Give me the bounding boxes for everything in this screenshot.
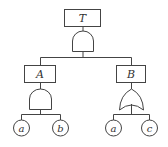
- svg-text:c: c: [147, 123, 153, 134]
- event-B-label: B: [126, 68, 135, 81]
- and-gate-icon: [73, 31, 94, 52]
- intermediate-event-B: B: [117, 66, 146, 83]
- svg-text:a: a: [111, 123, 117, 134]
- fault-tree-diagram: T A B a b a c: [0, 0, 168, 147]
- intermediate-event-A: A: [25, 66, 56, 83]
- basic-event-a-left: a: [14, 120, 30, 136]
- svg-text:a: a: [19, 123, 25, 134]
- svg-text:b: b: [57, 123, 63, 134]
- event-A-label: A: [35, 68, 44, 81]
- basic-event-a-right: a: [106, 120, 122, 136]
- and-gate-icon: [30, 89, 52, 109]
- top-event-T: T: [65, 10, 101, 27]
- basic-event-b: b: [53, 120, 69, 136]
- basic-event-c: c: [142, 120, 158, 136]
